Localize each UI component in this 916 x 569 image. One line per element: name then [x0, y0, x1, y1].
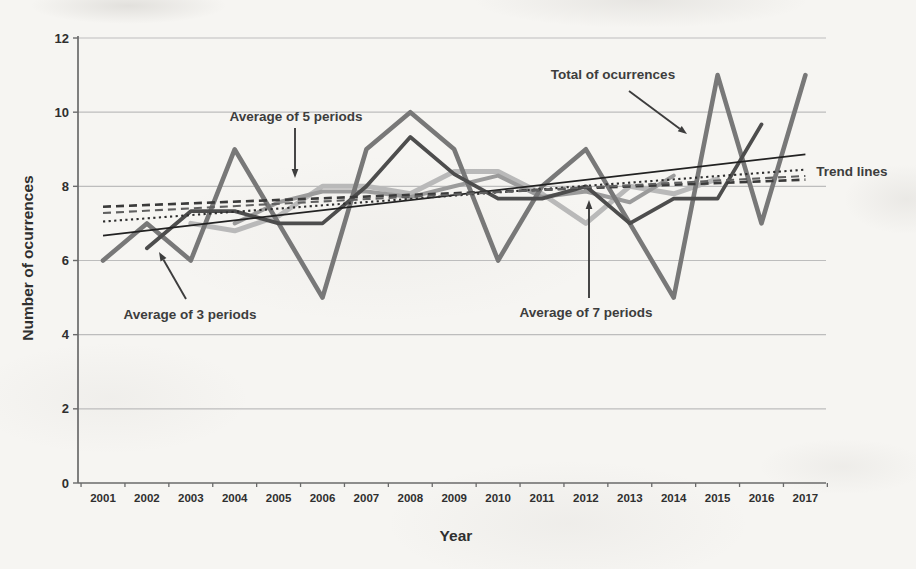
x-tick-label-2004: 2004: [222, 492, 248, 504]
x-tick-label-2009: 2009: [441, 492, 467, 504]
x-tick-label-2017: 2017: [793, 492, 819, 504]
y-tick-label: 12: [55, 31, 69, 46]
annotation-label-average-of-3-periods: Average of 3 periods: [123, 307, 256, 322]
y-tick-label: 4: [62, 327, 70, 342]
x-tick-label-2012: 2012: [573, 492, 599, 504]
scanned-chart-page: 0246810122001200220032004200520062007200…: [0, 0, 916, 569]
annotation-label-trend-lines: Trend lines: [816, 164, 887, 179]
x-tick-label-2015: 2015: [705, 492, 731, 504]
x-tick-label-2003: 2003: [178, 492, 204, 504]
x-tick-label-2016: 2016: [749, 492, 775, 504]
x-tick-label-2005: 2005: [266, 492, 292, 504]
x-tick-label-2008: 2008: [398, 492, 424, 504]
annotation-label-average-of-7-periods: Average of 7 periods: [519, 305, 652, 320]
x-tick-label-2014: 2014: [661, 492, 687, 504]
annotation-label-total-of-ocurrences: Total of ocurrences: [551, 67, 675, 82]
x-tick-label-2002: 2002: [134, 492, 160, 504]
annotation-arrow-average-of-3-periods: [163, 260, 186, 299]
y-axis-title: Number of ocurrences: [19, 175, 36, 340]
x-tick-label-2006: 2006: [310, 492, 336, 504]
x-axis-title: Year: [440, 527, 473, 544]
x-tick-label-2011: 2011: [530, 492, 556, 504]
x-tick-label-2001: 2001: [90, 492, 116, 504]
trend-line-trend-of-5-period-average: [103, 176, 805, 213]
y-tick-label: 10: [55, 105, 69, 120]
y-tick-label: 0: [62, 476, 69, 491]
y-tick-label: 8: [62, 179, 69, 194]
x-tick-label-2007: 2007: [354, 492, 380, 504]
annotation-label-average-of-5-periods: Average of 5 periods: [229, 109, 362, 124]
annotation-arrow-total-of-ocurrences: [629, 91, 680, 129]
x-tick-label-2010: 2010: [485, 492, 511, 504]
annotation-arrowhead-average-of-5-periods: [292, 169, 299, 178]
x-tick-label-2013: 2013: [617, 492, 643, 504]
line-chart: 0246810122001200220032004200520062007200…: [0, 0, 916, 569]
y-tick-label: 6: [62, 253, 69, 268]
y-tick-label: 2: [62, 401, 69, 416]
annotation-arrowhead-average-of-7-periods: [586, 200, 593, 209]
